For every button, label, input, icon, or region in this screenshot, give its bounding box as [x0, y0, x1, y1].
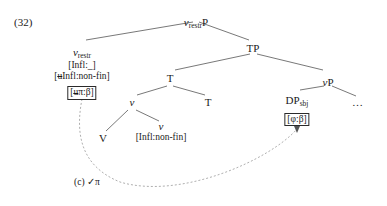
node-v-head-lower: v [Infl:non-fin]	[136, 120, 187, 143]
boxed-feature-phi-beta-wrap: [φ:β]	[284, 108, 309, 126]
node-t-bar: T	[167, 72, 174, 84]
node-vrestr-head: vrestr [Infl:_] [uInfl:non-fin] [uπ:β]	[54, 42, 109, 100]
strikethrough-u-glyph-pi: u	[73, 87, 78, 97]
node-vp: vP	[322, 72, 333, 90]
branch-vbar-to-v	[106, 110, 128, 131]
node-vrestr-subscript: restr	[78, 51, 91, 60]
figure-canvas: (32) vrestrP vrestr [Infl:_] [uInfl:non-…	[0, 0, 387, 206]
node-vp-p: P	[327, 76, 333, 88]
node-root-subscript: restr	[189, 21, 202, 30]
branch-tbar-to-vbar	[137, 86, 167, 95]
node-tp: TP	[247, 42, 260, 54]
node-t-head: T	[205, 96, 212, 108]
node-root-suffix: P	[202, 16, 208, 28]
boxed-feature-phi-beta: [φ:β]	[284, 113, 309, 126]
branch-tbar-to-thead	[173, 86, 205, 95]
node-dp-sbj: DPsbj [φ:β]	[284, 90, 309, 126]
node-ellipsis: …	[352, 96, 364, 108]
branch-root-to-vrestr	[86, 22, 193, 40]
branch-vp-to-ellipsis	[332, 86, 356, 96]
boxed-feature-upi-beta-wrap: [uπ:β]	[54, 81, 109, 99]
feature-infl-nonfin: [Infl:non-fin]	[136, 132, 187, 143]
agree-annotation: (c) ✓π	[74, 176, 100, 187]
agree-dashed-arrow	[80, 99, 301, 186]
node-root-vrestrP: vrestrP	[184, 12, 208, 30]
branch-tp-to-tbar	[175, 54, 250, 70]
feature-uinfl-nonfin: [uInfl:non-fin]	[54, 71, 109, 82]
node-dp-label: DP	[286, 94, 300, 106]
node-v-bar: v	[130, 96, 135, 108]
tree-branches	[0, 0, 387, 206]
feature-infl-unvalued: [Infl:_]	[54, 60, 109, 71]
branch-tp-to-vp	[257, 54, 323, 70]
strikethrough-u-glyph: u	[57, 71, 62, 82]
example-number: (32)	[14, 16, 32, 28]
boxed-feature-upi-beta: [uπ:β]	[67, 86, 96, 99]
node-dp-subscript: sbj	[300, 99, 309, 108]
agree-annotation-label: (c)	[74, 177, 85, 187]
agree-annotation-check: ✓π	[87, 177, 100, 187]
node-V-terminal: V	[99, 132, 107, 144]
node-v-head-lower-label: v	[136, 120, 187, 132]
